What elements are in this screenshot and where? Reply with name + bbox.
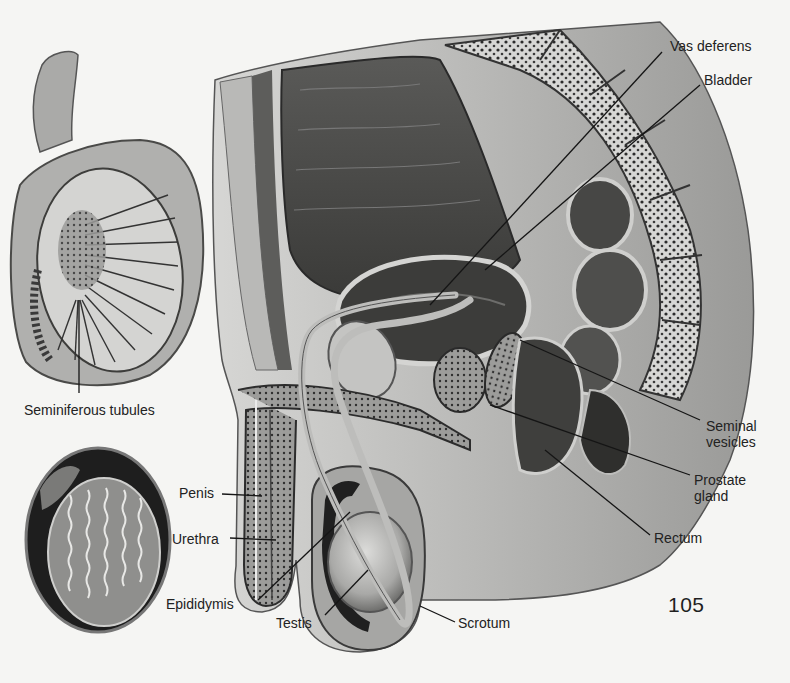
inset-tubules-detail — [26, 448, 170, 632]
label-rectum: Rectum — [654, 530, 702, 546]
label-seminal-line1: Seminal — [706, 418, 757, 434]
label-seminiferous-tubules: Seminiferous tubules — [24, 402, 155, 418]
anatomy-page: Vas deferens Bladder Seminal vesicles Pr… — [0, 0, 790, 683]
label-prostate-line2: gland — [694, 488, 746, 504]
label-vas-deferens: Vas deferens — [670, 38, 751, 54]
leader-scrotum — [420, 606, 455, 622]
label-prostate-gland: Prostate gland — [694, 472, 746, 504]
label-urethra: Urethra — [172, 531, 219, 547]
label-bladder: Bladder — [704, 72, 752, 88]
sagittal-section — [213, 22, 754, 652]
inset-testis-cross-section — [11, 52, 203, 386]
label-penis: Penis — [179, 485, 214, 501]
page-number: 105 — [668, 593, 705, 617]
label-epididymis: Epididymis — [166, 596, 234, 612]
anatomy-illustration — [0, 0, 790, 683]
label-seminal-line2: vesicles — [706, 434, 757, 450]
label-scrotum: Scrotum — [458, 615, 510, 631]
label-testis: Testis — [276, 615, 312, 631]
label-prostate-line1: Prostate — [694, 472, 746, 488]
label-seminal-vesicles: Seminal vesicles — [706, 418, 757, 450]
